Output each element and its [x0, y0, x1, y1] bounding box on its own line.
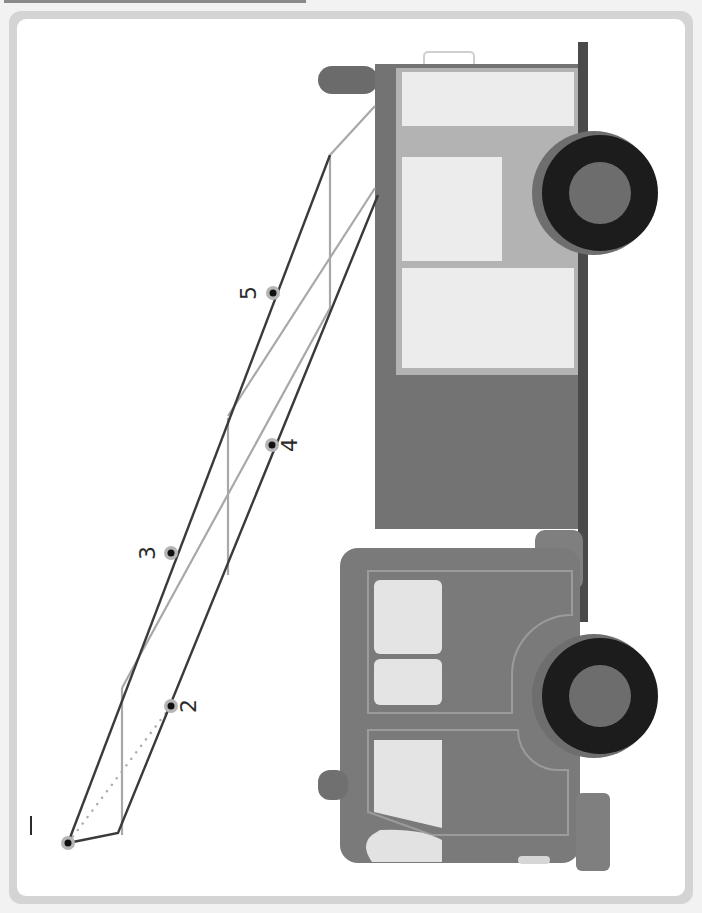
rear-bumper: [318, 66, 378, 94]
compartment-window-1: [402, 72, 574, 126]
front-wheel: [532, 634, 658, 758]
ladder-rail-lower: [68, 195, 378, 843]
dot-label-4: 4: [277, 438, 302, 452]
grille-light: [518, 856, 550, 864]
cab-window-1: [374, 580, 442, 654]
dot-label-3: 3: [135, 546, 160, 560]
dot-3[interactable]: 3: [135, 546, 178, 560]
front-bumper: [576, 793, 610, 871]
dot-label-5: 5: [236, 286, 261, 300]
compartment-window-2: [402, 157, 502, 261]
dot-2[interactable]: 2: [164, 699, 201, 713]
rear-wheel: [532, 131, 658, 255]
dot-1[interactable]: [31, 816, 75, 850]
dot-4[interactable]: 4: [265, 438, 302, 452]
ladder-rail-upper: [68, 155, 330, 843]
rear-hub: [569, 162, 631, 224]
dot-label-2: 2: [176, 699, 201, 713]
cab-mirror: [318, 770, 348, 800]
cab-window-2: [374, 659, 442, 705]
dot-5[interactable]: 5: [236, 286, 280, 300]
compartment-window-3: [402, 268, 574, 368]
fire-truck-illustration: 2 3 4 5 1: [0, 0, 702, 913]
front-hub: [569, 665, 631, 727]
ladder: [68, 106, 378, 843]
